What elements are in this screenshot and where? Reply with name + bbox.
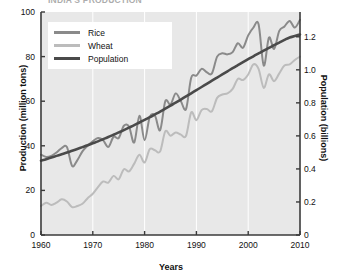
legend-swatch-population — [54, 57, 80, 60]
y-tick-left-0: 0 — [9, 230, 35, 240]
y-tick-right-1.2: 1.2 — [304, 32, 330, 42]
y-axis-right-title: Population (billions) — [319, 43, 329, 193]
legend-label-rice: Rice — [88, 28, 105, 38]
legend-label-wheat: Wheat — [88, 41, 113, 51]
x-tick-2000: 2000 — [228, 240, 268, 250]
legend-swatch-wheat — [54, 44, 80, 47]
legend-label-population: Population — [88, 54, 128, 64]
y-axis-left-title: Production (million tons) — [18, 43, 28, 193]
y-tick-right-0: 0 — [304, 230, 330, 240]
x-tick-1990: 1990 — [176, 240, 216, 250]
legend-swatch-rice — [54, 31, 80, 34]
x-tick-2010: 2010 — [280, 240, 320, 250]
x-tick-1960: 1960 — [21, 240, 61, 250]
legend-item-population: Population — [54, 52, 172, 65]
chart-legend: Rice Wheat Population — [48, 22, 172, 69]
y-tick-left-100: 100 — [9, 7, 35, 17]
x-tick-1980: 1980 — [125, 240, 165, 250]
x-tick-1970: 1970 — [73, 240, 113, 250]
legend-item-rice: Rice — [54, 26, 172, 39]
x-axis-title: Years — [41, 262, 301, 272]
chart-figure: INDIA'S PRODUCTION 02040608010000.20.40.… — [0, 0, 342, 276]
y-tick-right-0.2: 0.2 — [304, 197, 330, 207]
legend-item-wheat: Wheat — [54, 39, 172, 52]
